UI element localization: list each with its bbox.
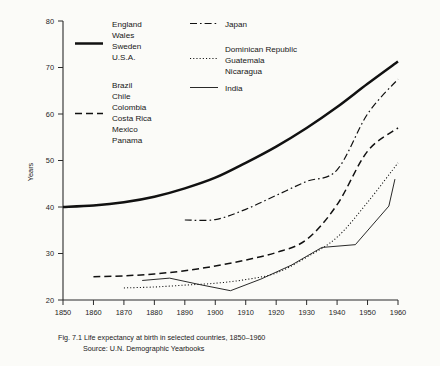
figure-life-expectancy: 20304050607080 1850186018701880189019001… bbox=[0, 0, 440, 366]
y-tick-label-80: 80 bbox=[46, 17, 54, 26]
y-tick-label-40: 40 bbox=[46, 203, 54, 212]
chart-canvas: 20304050607080 1850186018701880189019001… bbox=[0, 0, 440, 366]
legend-label-latin-america-4: Mexico bbox=[112, 125, 138, 134]
y-tick-label-70: 70 bbox=[46, 63, 54, 72]
y-tick-label-50: 50 bbox=[46, 156, 54, 165]
legend-label-latin-america-5: Panama bbox=[112, 136, 143, 145]
legend-label-central-america-0: Dominican Republic bbox=[225, 45, 297, 54]
legend-label-japan-0: Japan bbox=[225, 20, 247, 29]
axes: 20304050607080 1850186018701880189019001… bbox=[26, 17, 406, 317]
legend-label-developed-0: England bbox=[112, 20, 142, 29]
x-tick-label-1960: 1960 bbox=[390, 308, 406, 317]
x-tick-label-1940: 1940 bbox=[329, 308, 345, 317]
series-line-2 bbox=[185, 79, 398, 220]
legend-label-developed-1: Wales bbox=[112, 31, 134, 40]
y-tick-label-30: 30 bbox=[46, 249, 54, 258]
series-line-3 bbox=[124, 163, 398, 288]
legend: EnglandWalesSwedenU.S.A.BrazilChileColom… bbox=[75, 20, 297, 145]
y-tick-labels: 20304050607080 bbox=[46, 17, 54, 305]
x-tick-label-1880: 1880 bbox=[146, 308, 162, 317]
x-tick-label-1860: 1860 bbox=[85, 308, 101, 317]
y-axis-label: Years bbox=[26, 162, 35, 181]
x-tick-label-1900: 1900 bbox=[207, 308, 223, 317]
x-tick-label-1920: 1920 bbox=[268, 308, 284, 317]
legend-label-latin-america-3: Costa Rica bbox=[112, 114, 152, 123]
x-tick-label-1890: 1890 bbox=[177, 308, 193, 317]
x-tick-label-1910: 1910 bbox=[238, 308, 254, 317]
legend-label-developed-2: Sweden bbox=[112, 42, 141, 51]
legend-label-india-0: India bbox=[225, 84, 243, 93]
legend-label-developed-3: U.S.A. bbox=[112, 53, 135, 62]
x-tick-label-1850: 1850 bbox=[55, 308, 71, 317]
series-line-1 bbox=[93, 128, 398, 277]
x-tick-label-1870: 1870 bbox=[116, 308, 132, 317]
legend-label-latin-america-0: Brazil bbox=[112, 81, 132, 90]
legend-label-central-america-2: Nicaragua bbox=[225, 67, 262, 76]
x-tick-label-1930: 1930 bbox=[298, 308, 314, 317]
x-tick-label-1950: 1950 bbox=[359, 308, 375, 317]
series-line-4 bbox=[142, 179, 395, 291]
legend-label-latin-america-1: Chile bbox=[112, 92, 131, 101]
caption-line-1: Fig. 7.1 Life expectancy at birth in sel… bbox=[0, 332, 440, 343]
legend-label-central-america-1: Guatemala bbox=[225, 56, 265, 65]
y-tick-label-60: 60 bbox=[46, 110, 54, 119]
x-tick-marks bbox=[63, 300, 398, 305]
x-tick-labels: 1850186018701880189019001910192019301940… bbox=[55, 308, 406, 317]
y-tick-marks bbox=[58, 21, 63, 300]
caption-block: Fig. 7.1 Life expectancy at birth in sel… bbox=[0, 332, 440, 354]
caption-line-2: Source: U.N. Demographic Yearbooks bbox=[0, 343, 440, 354]
legend-label-latin-america-2: Colombia bbox=[112, 103, 147, 112]
y-tick-label-20: 20 bbox=[46, 296, 54, 305]
